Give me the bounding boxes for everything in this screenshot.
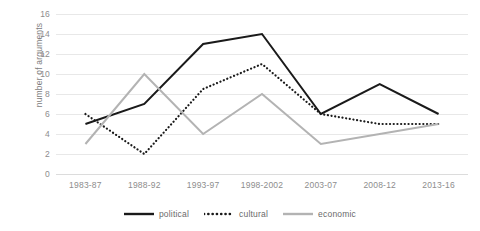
y-axis-tick-label: 8 <box>45 89 50 99</box>
y-axis-tick-label: 4 <box>45 129 50 139</box>
legend-label: cultural <box>239 209 268 219</box>
legend-item-political[interactable]: political <box>124 209 189 219</box>
x-axis-tick-label: 2003-07 <box>305 180 338 190</box>
y-axis-tick-label: 2 <box>45 149 50 159</box>
x-axis-tick-label: 1983-87 <box>69 180 102 190</box>
x-axis-tick-labels: 1983-871988-921993-971998-20022003-07200… <box>56 180 468 196</box>
x-axis-tick-label: 1988-92 <box>128 180 161 190</box>
y-axis-tick-label: 16 <box>40 9 50 19</box>
plot-area <box>56 14 468 174</box>
y-axis-tick-label: 14 <box>40 29 50 39</box>
y-axis-tick-label: 12 <box>40 49 50 59</box>
x-axis-tick-label: 1993-97 <box>187 180 220 190</box>
y-axis-tick-label: 6 <box>45 109 50 119</box>
y-axis-tick-label: 10 <box>40 69 50 79</box>
legend-item-cultural[interactable]: cultural <box>204 209 268 219</box>
series-line-cultural <box>85 64 438 154</box>
chart-legend: politicalculturaleconomic <box>0 205 480 223</box>
legend-swatch-political <box>124 209 154 219</box>
x-axis-tick-label: 2013-16 <box>422 180 455 190</box>
legend-label: economic <box>318 209 356 219</box>
x-axis-line <box>56 174 468 175</box>
legend-swatch-cultural <box>204 209 234 219</box>
series-layer <box>56 14 468 174</box>
line-chart: number of arguments 1614121086420 1983-8… <box>0 0 480 231</box>
legend-label: political <box>159 209 189 219</box>
y-axis-tick-labels: 1614121086420 <box>0 14 50 174</box>
x-axis-tick-label: 2008-12 <box>363 180 396 190</box>
y-axis-tick-label: 0 <box>45 169 50 179</box>
x-axis-tick-label: 1998-2002 <box>241 180 283 190</box>
series-line-economic <box>85 74 438 144</box>
legend-swatch-economic <box>283 209 313 219</box>
legend-item-economic[interactable]: economic <box>283 209 356 219</box>
series-line-political <box>85 34 438 124</box>
